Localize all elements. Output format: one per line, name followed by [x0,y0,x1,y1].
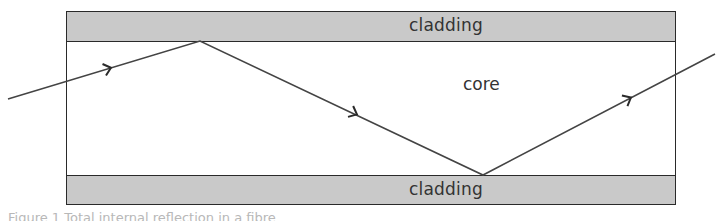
figure-caption: Figure 1 Total internal reflection in a … [8,210,276,221]
optical-fibre-diagram: cladding cladding core Figure 1 Total in… [0,0,717,221]
light-ray [0,0,717,221]
ray-path [8,41,715,175]
